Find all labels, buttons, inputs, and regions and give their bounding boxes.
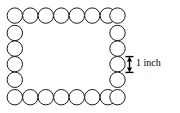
circle-left — [7, 56, 22, 71]
circle-bottom — [54, 90, 69, 105]
circle-border-figure: 1 inch — [0, 0, 180, 113]
circle-left — [7, 25, 22, 40]
circle-top — [23, 8, 38, 23]
circle-bottom — [38, 90, 53, 105]
circle-bottom — [69, 90, 84, 105]
circle-left — [7, 72, 22, 87]
circle-right — [110, 72, 125, 87]
circle-right — [110, 25, 125, 40]
circle-top-right-corner — [110, 8, 125, 23]
circle-right — [110, 41, 125, 56]
circle-group — [7, 8, 125, 105]
dimension-label: 1 inch — [136, 58, 161, 68]
circle-bottom-right-corner — [110, 90, 125, 105]
circle-right — [110, 56, 125, 71]
circle-top — [85, 8, 100, 23]
circle-top — [69, 8, 84, 23]
circle-bottom — [23, 90, 38, 105]
circle-top — [54, 8, 69, 23]
circle-left — [7, 41, 22, 56]
circle-bottom — [85, 90, 100, 105]
dimension-arrowhead-up — [127, 57, 132, 62]
circle-top-left-corner — [7, 8, 22, 23]
dimension-arrowhead-down — [127, 67, 132, 72]
circle-bottom-left-corner — [7, 90, 22, 105]
dimension-marker — [126, 57, 134, 73]
circle-top — [38, 8, 53, 23]
